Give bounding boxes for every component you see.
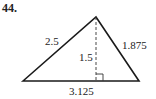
right-side-label: 1.875 — [122, 40, 147, 51]
left-side-label: 2.5 — [45, 36, 59, 47]
right-angle-marker — [96, 74, 103, 81]
base-label: 3.125 — [69, 86, 94, 97]
height-label: 1.5 — [79, 52, 93, 63]
